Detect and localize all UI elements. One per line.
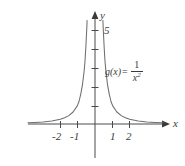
function-name: g(x) — [105, 67, 121, 77]
fraction: 1 x2 — [131, 60, 143, 83]
curve-left-branch — [28, 20, 87, 122]
y-tick-label-5: 5 — [104, 25, 110, 36]
x-tick-label--2: -2 — [52, 131, 61, 142]
fraction-denominator: x2 — [131, 72, 143, 83]
x-axis-label: x — [173, 118, 178, 129]
y-axis-arrowhead — [92, 11, 99, 19]
x-axis-arrowhead — [162, 121, 170, 128]
x-tick-label--1: -1 — [70, 131, 79, 142]
x-tick-label-2: 2 — [126, 131, 132, 142]
function-graph-figure: -2 -1 1 2 5 y x g(x) = 1 x2 — [0, 0, 185, 166]
equals-sign: = — [122, 67, 128, 77]
fraction-numerator: 1 — [132, 60, 141, 71]
y-axis-label: y — [100, 10, 105, 21]
plot-canvas — [0, 0, 185, 166]
function-label: g(x) = 1 x2 — [105, 60, 143, 83]
denominator-exponent: 2 — [137, 71, 141, 79]
x-tick-label-1: 1 — [110, 131, 116, 142]
